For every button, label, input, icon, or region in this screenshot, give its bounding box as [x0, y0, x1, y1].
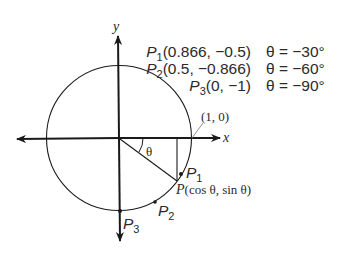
point-p-label: P(cos θ, sin θ) [175, 182, 251, 197]
y-axis [118, 36, 119, 138]
reference-point-label: (1, 0) [201, 109, 229, 124]
table-row-p3-angle: θ = −90° [266, 77, 325, 94]
p3-circle-label: P3 [123, 215, 139, 235]
point-p3-dot [118, 209, 122, 213]
table-row-p3-coords: P3(0, −1) [189, 77, 251, 97]
table-row-p2-angle: θ = −60° [266, 60, 325, 77]
point-p2-dot [153, 200, 157, 204]
p1-circle-label: P1 [186, 164, 202, 184]
angle-label: θ [146, 144, 152, 159]
y-axis-negative [119, 138, 120, 241]
angle-arc [139, 138, 143, 152]
point-p-name: P [175, 182, 185, 197]
reference-leader-line [192, 123, 203, 138]
table-row-p1-angle: θ = −30° [266, 43, 325, 60]
x-axis-negative [17, 138, 119, 139]
x-axis-label: x [222, 130, 230, 145]
y-axis-label: y [111, 19, 120, 34]
p2-circle-label: P2 [158, 202, 174, 222]
point-p-coords: (cos θ, sin θ) [185, 182, 252, 197]
point-p1-dot [179, 172, 183, 176]
unit-circle-diagram: y x (1, 0) θ P(cos θ, sin θ) P1 P2 P3 P1… [0, 0, 340, 254]
